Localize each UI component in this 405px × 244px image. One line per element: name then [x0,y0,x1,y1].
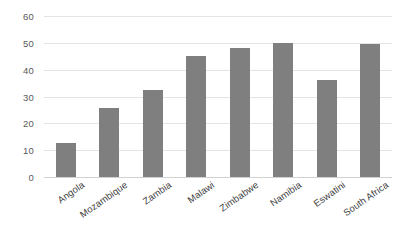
y-tick-label-30: 30 [23,91,34,102]
bar-chart: 60 50 40 30 20 10 0 Angola Mozambique Za… [0,0,405,244]
x-tick-label-eswatini: Eswatini [311,179,347,209]
x-tick-label-zambia: Zambia [140,179,173,207]
bar-namibia [273,43,293,177]
x-tick-label-angola: Angola [55,179,86,205]
bar-angola [56,143,76,177]
bar-mozambique [99,108,119,177]
bar-zimbabwe [230,48,250,177]
x-axis: Angola Mozambique Zambia Malawi Zimbabwe… [44,179,392,244]
bar-zambia [143,90,163,177]
bars-layer [44,16,392,177]
y-tick-label-40: 40 [23,64,34,75]
y-tick-label-20: 20 [23,118,34,129]
y-tick-label-10: 10 [23,145,34,156]
x-tick-label-malawi: Malawi [186,179,217,205]
bar-malawi [186,56,206,177]
x-tick-label-namibia: Namibia [268,179,303,208]
gridline-0-baseline [44,177,392,178]
x-tick-label-mozambique: Mozambique [78,179,130,220]
y-tick-label-60: 60 [23,11,34,22]
y-tick-label-0: 0 [29,172,34,183]
x-tick-label-zimbabwe: Zimbabwe [217,179,260,214]
bar-south-africa [360,44,380,177]
bar-eswatini [317,80,337,177]
y-tick-label-50: 50 [23,37,34,48]
x-tick-label-south-africa: South Africa [341,179,390,218]
y-axis: 60 50 40 30 20 10 0 [0,0,40,244]
